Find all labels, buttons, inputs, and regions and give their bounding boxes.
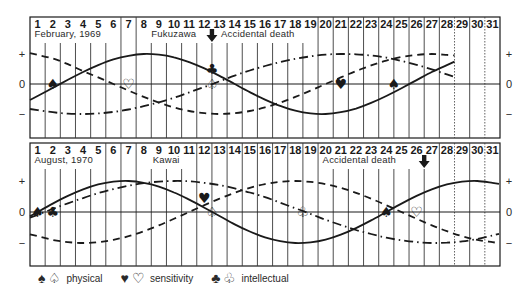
legend-intellectual: ♣ ♧ intellectual: [211, 271, 288, 285]
legend-sensitivity: ♥ ♡ sensitivity: [121, 271, 194, 285]
chart-label-person: Fukuzawa: [151, 28, 196, 39]
day-number: 5: [95, 144, 101, 156]
axis-zero-left: 0: [19, 206, 25, 218]
day-number: 17: [274, 144, 286, 156]
chart-label-month-label: August, 1970: [35, 154, 93, 165]
day-number: 7: [125, 18, 131, 30]
heart-filled-icon: ♥: [335, 76, 348, 92]
club-filled-icon: ♣: [206, 61, 219, 77]
day-number: 19: [304, 144, 316, 156]
spade-filled-icon: ♠: [38, 271, 45, 285]
day-number: 14: [229, 144, 242, 156]
heart-outline-icon: ♡: [132, 271, 145, 285]
day-number: 24: [380, 18, 393, 30]
day-number: 29: [456, 144, 468, 156]
club-filled-icon: ♣: [46, 204, 59, 220]
club-filled-icon: ♣: [211, 271, 220, 285]
day-number: 16: [259, 144, 271, 156]
heart-outline-icon: ♡: [122, 76, 135, 92]
day-number: 25: [395, 144, 407, 156]
day-number: 15: [244, 144, 256, 156]
axis-minus-left: −: [19, 237, 25, 249]
axis-minus-right: −: [506, 108, 512, 120]
club-outline-icon: ♧: [223, 271, 236, 285]
event-arrow-down-icon: [206, 29, 217, 42]
axis-plus-left: +: [19, 175, 25, 187]
day-number: 8: [141, 144, 147, 156]
day-number: 11: [183, 144, 195, 156]
club-outline-icon: ♧: [297, 204, 310, 220]
day-number: 26: [410, 144, 422, 156]
spade-outline-icon: ♤: [206, 204, 219, 220]
biorhythm-panel-1: 1234567891011121314151617181920212223242…: [19, 17, 512, 138]
day-number: 26: [410, 18, 422, 30]
day-number: 28: [441, 144, 453, 156]
day-number: 28: [441, 18, 453, 30]
day-number: 8: [141, 18, 147, 30]
axis-zero-right: 0: [506, 206, 512, 218]
chart-label-month-label: February, 1969: [35, 28, 102, 39]
axis-minus-left: −: [19, 108, 25, 120]
day-number: 27: [426, 144, 438, 156]
heart-filled-icon: ♥: [198, 190, 211, 206]
biorhythm-panel-2: 1234567891011121314151617181920212223242…: [19, 143, 512, 266]
chart-label-event: Accidental death: [323, 154, 396, 165]
day-number: 23: [365, 18, 377, 30]
day-number: 20: [320, 18, 332, 30]
day-number: 30: [471, 144, 483, 156]
day-number: 18: [289, 144, 301, 156]
legend-label-intellectual: intellectual: [241, 273, 288, 284]
day-number: 13: [213, 144, 225, 156]
day-number: 12: [198, 144, 210, 156]
day-number: 31: [486, 18, 498, 30]
day-number: 27: [426, 18, 438, 30]
legend-label-sensitivity: sensitivity: [150, 273, 193, 284]
chart-legend: ♠ ♤ physical ♥ ♡ sensitivity ♣ ♧ intelle…: [38, 268, 307, 288]
day-number: 6: [110, 18, 116, 30]
axis-plus-right: +: [506, 48, 512, 60]
heart-outline-icon: ♡: [410, 204, 423, 220]
axis-zero-right: 0: [506, 78, 512, 90]
legend-label-physical: physical: [66, 273, 102, 284]
legend-physical: ♠ ♤ physical: [38, 271, 103, 285]
spade-filled-icon: ♠: [31, 204, 44, 220]
axis-minus-right: −: [506, 237, 512, 249]
chart-frame: [30, 143, 500, 266]
event-arrow-down-icon: [419, 155, 430, 168]
day-number: 19: [304, 18, 316, 30]
biorhythm-chart: 1234567891011121314151617181920212223242…: [0, 0, 527, 298]
day-number: 29: [456, 18, 468, 30]
heart-filled-icon: ♥: [121, 271, 129, 285]
axis-zero-left: 0: [19, 78, 25, 90]
day-number: 12: [198, 18, 210, 30]
day-number: 31: [486, 144, 498, 156]
chart-label-person: Kawai: [153, 154, 180, 165]
axis-plus-right: +: [506, 175, 512, 187]
axis-plus-left: +: [19, 48, 25, 60]
day-number: 25: [395, 18, 407, 30]
day-number: 21: [335, 18, 347, 30]
spade-outline-icon: ♤: [48, 271, 61, 285]
day-number: 7: [125, 144, 131, 156]
day-number: 22: [350, 18, 362, 30]
spade-filled-icon: ♠: [46, 76, 59, 92]
day-number: 30: [471, 18, 483, 30]
chart-label-event: Accidental death: [221, 28, 294, 39]
spade-filled-icon: ♠: [388, 76, 401, 92]
day-number: 6: [110, 144, 116, 156]
